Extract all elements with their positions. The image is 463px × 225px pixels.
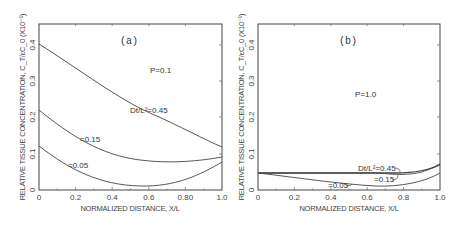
panel-b-p-label: P=1.0 xyxy=(355,90,377,99)
panel-a: 0 0.2 0.4 0.6 0.80 1.0 0 0.1 0.2 0.3 0.4… xyxy=(18,13,228,213)
svg-text:0: 0 xyxy=(37,193,42,202)
panel-b-curve-label-015: =0.15 xyxy=(374,175,395,184)
svg-text:0.6: 0.6 xyxy=(362,193,374,202)
panel-a-x-tick-labels: 0 0.2 0.4 0.6 0.80 1.0 xyxy=(37,193,228,202)
panel-b-curve-045 xyxy=(258,164,440,173)
svg-text:0.4: 0.4 xyxy=(325,193,337,202)
panel-a-p-label: P=0.1 xyxy=(150,66,172,75)
svg-text:0.8: 0.8 xyxy=(398,193,410,202)
panel-a-curve-045 xyxy=(39,44,222,147)
panel-b-frame xyxy=(258,24,440,190)
svg-text:0.2: 0.2 xyxy=(289,193,301,202)
svg-text:0: 0 xyxy=(28,187,37,192)
panel-b-curve-015 xyxy=(258,165,440,174)
panel-b-x-tick-labels: 0 0.2 0.4 0.6 0.8 1.0 xyxy=(256,193,446,202)
panel-b-leader-045 xyxy=(395,168,400,172)
panel-b-y-tick-labels: 0 0.1 0.2 0.3 0.4 xyxy=(247,39,256,192)
svg-text:0.3: 0.3 xyxy=(247,75,256,87)
panel-b: 0 0.2 0.4 0.6 0.8 1.0 0 0.1 0.2 0.3 0.4 … xyxy=(237,13,446,213)
svg-text:0.80: 0.80 xyxy=(178,193,194,202)
panel-a-label: (a) xyxy=(120,36,138,47)
svg-text:0.1: 0.1 xyxy=(247,148,256,160)
panel-a-curve-015 xyxy=(39,110,222,162)
panel-b-curve-label-045: Dt/L²=0.45 xyxy=(358,164,396,173)
svg-text:1.0: 1.0 xyxy=(434,193,446,202)
panel-b-curve-label-005: =0.05 xyxy=(328,181,349,190)
svg-text:0: 0 xyxy=(256,193,261,202)
svg-text:0.2: 0.2 xyxy=(70,193,82,202)
panel-b-x-axis-title: NORMALIZED DISTANCE, X/L xyxy=(299,204,398,213)
panel-a-curve-label-045: Dt/L²=0.45 xyxy=(130,106,168,115)
svg-text:0.1: 0.1 xyxy=(28,148,37,160)
svg-text:0.4: 0.4 xyxy=(28,39,37,51)
svg-text:0.6: 0.6 xyxy=(143,193,155,202)
panel-b-y-axis-title: RELATIVE TISSUE CONCENTRATION, C_T/εC_0 … xyxy=(237,13,246,200)
svg-text:0.3: 0.3 xyxy=(28,75,37,87)
panel-b-curve-005 xyxy=(258,173,440,186)
svg-text:0.4: 0.4 xyxy=(107,193,119,202)
svg-text:1.0: 1.0 xyxy=(216,193,228,202)
panel-a-curve-label-005: =0.05 xyxy=(68,161,89,170)
panel-a-y-axis-title: RELATIVE TISSUE CONCENTRATION, C_T/εC_0 … xyxy=(18,13,27,200)
panel-a-curve-label-015: =0.15 xyxy=(80,135,101,144)
panel-a-curve-005 xyxy=(39,146,222,186)
panel-a-x-axis-title: NORMALIZED DISTANCE, X/L xyxy=(80,204,179,213)
panel-a-y-tick-labels: 0 0.1 0.2 0.3 0.4 xyxy=(28,39,37,192)
svg-text:0.2: 0.2 xyxy=(28,111,37,123)
svg-text:0.2: 0.2 xyxy=(247,111,256,123)
panel-b-label: (b) xyxy=(339,36,357,47)
figure: 0 0.2 0.4 0.6 0.80 1.0 0 0.1 0.2 0.3 0.4… xyxy=(0,0,463,225)
svg-text:0.4: 0.4 xyxy=(247,39,256,51)
svg-text:0: 0 xyxy=(247,187,256,192)
